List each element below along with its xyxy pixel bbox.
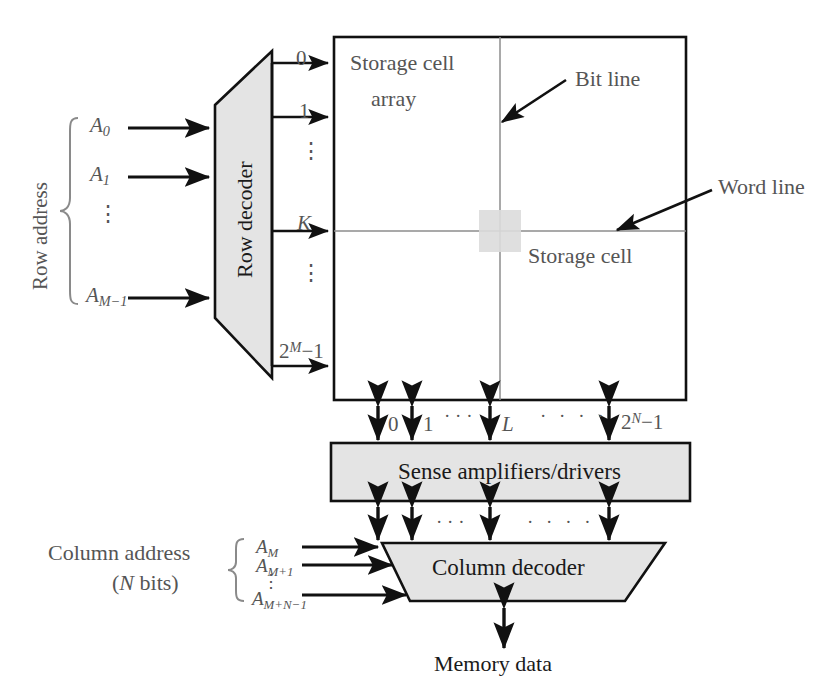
bit-line-dots-2: · · · · bbox=[540, 406, 608, 425]
word-line-label: Word line bbox=[718, 176, 805, 198]
row-address-signal-1: A1 bbox=[90, 164, 110, 187]
word-line-index-1: 1 bbox=[299, 101, 310, 122]
bit-line-index-last-suffix: −1 bbox=[641, 410, 663, 434]
bit-line-index-selected: L bbox=[502, 414, 514, 435]
row-address-brace bbox=[60, 118, 78, 304]
column-address-group-label-line2: (N bits) bbox=[112, 572, 179, 594]
word-line-index-0: 0 bbox=[296, 48, 307, 69]
storage-cell-label: Storage cell bbox=[528, 245, 632, 267]
storage-cell-highlight bbox=[479, 210, 521, 252]
word-line-index-selected: K bbox=[297, 213, 311, 234]
word-line-index-ellipsis-lower: ⋮ bbox=[300, 262, 322, 284]
row-decoder-label: Row decoder bbox=[234, 161, 256, 278]
word-line-index-last-sup: M bbox=[290, 339, 302, 355]
column-decoder-label: Column decoder bbox=[432, 556, 585, 579]
bit-line-index-0: 0 bbox=[388, 414, 399, 435]
column-address-ellipsis: ⋮ bbox=[262, 572, 280, 590]
column-address-brace bbox=[228, 539, 244, 601]
lower-bus-dots-2: · · · · bbox=[527, 512, 595, 531]
lower-bus-dots-1: · · · bbox=[436, 512, 464, 531]
word-line-index-last: 2M−1 bbox=[279, 340, 324, 362]
row-address-ellipsis: ⋮ bbox=[97, 203, 120, 225]
row-address-signal-0: A0 bbox=[90, 115, 110, 138]
memory-data-label: Memory data bbox=[434, 653, 552, 675]
bit-line-index-last: 2N−1 bbox=[621, 411, 663, 433]
word-line-index-last-suffix: −1 bbox=[301, 339, 323, 363]
sense-amplifiers-label: Sense amplifiers/drivers bbox=[398, 460, 621, 483]
bit-line-index-last-sup: N bbox=[632, 410, 642, 426]
bit-line-dots-1: · · · bbox=[444, 406, 472, 425]
storage-array-label-line2: array bbox=[371, 88, 416, 110]
row-address-arrows bbox=[128, 128, 209, 298]
word-line-index-ellipsis-upper: ⋮ bbox=[300, 140, 322, 162]
memory-array-diagram: Row address A0 A1 ⋮ AM−1 Row decoder 0 1… bbox=[0, 0, 840, 698]
row-address-signal-1-sub: 1 bbox=[103, 172, 110, 188]
column-address-signal-last-sub: M+N−1 bbox=[264, 597, 307, 612]
bit-line-label: Bit line bbox=[575, 68, 640, 90]
storage-array-label-line1: Storage cell bbox=[350, 52, 454, 74]
row-address-group-label: Row address bbox=[30, 182, 51, 290]
bit-line-index-1: 1 bbox=[423, 414, 434, 435]
row-address-signal-last: AM−1 bbox=[86, 285, 127, 308]
column-address-signal-last: AM+N−1 bbox=[252, 589, 307, 612]
row-address-signal-last-sub: M−1 bbox=[99, 293, 128, 309]
column-address-bits-symbol: N bbox=[119, 570, 134, 595]
row-address-signal-0-sub: 0 bbox=[103, 123, 110, 139]
column-address-group-label-line1: Column address bbox=[48, 542, 190, 564]
